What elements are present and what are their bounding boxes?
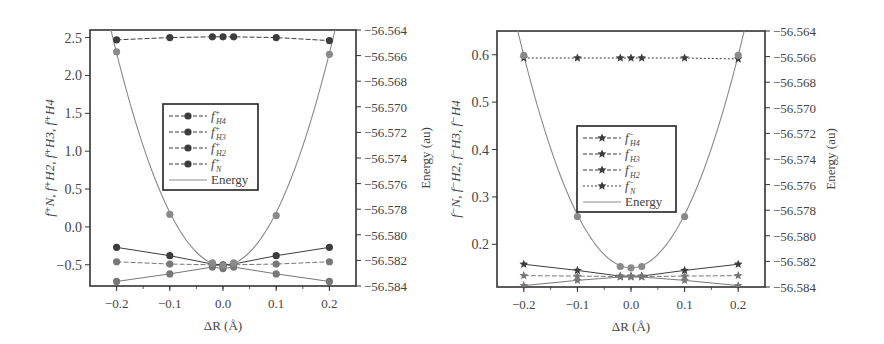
y2-tick-label: −56.584 <box>773 280 817 295</box>
star-marker-icon <box>734 260 743 268</box>
y2-tick-label: −56.564 <box>364 23 408 38</box>
x-tick-label: −0.2 <box>105 296 129 311</box>
y2-tick-label: −56.572 <box>773 126 816 141</box>
y-tick-label: −0.5 <box>57 258 82 273</box>
circle-marker-icon <box>273 252 280 259</box>
x-tick-label: 0.1 <box>268 296 284 311</box>
x-tick-label: 0.0 <box>623 297 639 312</box>
circle-marker-icon <box>166 252 173 259</box>
y2-tick-label: −56.578 <box>364 202 407 217</box>
y2-tick-label: −56.580 <box>364 228 407 243</box>
y2-tick-label: −56.580 <box>773 229 816 244</box>
circle-marker-icon <box>273 212 280 219</box>
star-marker-icon <box>616 53 625 61</box>
legend-label: Energy <box>211 172 249 187</box>
circle-marker-icon <box>520 52 527 59</box>
y-tick-label: 1.0 <box>65 144 83 159</box>
circle-marker-icon <box>166 211 173 218</box>
y-axis-label: f⁻N, f⁻H2, f⁻H3, f⁻H4 <box>448 100 463 218</box>
circle-marker-icon <box>230 259 237 266</box>
y2-tick-label: −56.564 <box>773 24 817 39</box>
y2-tick-label: −56.576 <box>773 178 817 193</box>
circle-marker-icon <box>184 160 191 167</box>
y2-axis-label: Energy (au) <box>418 127 433 188</box>
x-axis-label: ΔR (Å) <box>612 319 650 334</box>
star-marker-icon <box>627 272 636 280</box>
x-tick-label: −0.2 <box>512 297 536 312</box>
star-marker-icon <box>637 272 646 280</box>
circle-marker-icon <box>113 244 120 251</box>
circle-marker-icon <box>617 263 624 270</box>
circle-marker-icon <box>113 278 120 285</box>
circle-marker-icon <box>209 33 216 40</box>
y-tick-label: 2.5 <box>65 31 83 46</box>
circle-marker-icon <box>209 259 216 266</box>
star-marker-icon <box>637 53 646 61</box>
circle-marker-icon <box>273 34 280 41</box>
legend-label: Energy <box>625 194 663 209</box>
star-marker-icon <box>627 53 636 61</box>
circle-marker-icon <box>219 33 226 40</box>
circle-marker-icon <box>326 278 333 285</box>
circle-marker-icon <box>166 260 173 267</box>
y-tick-label: 2.0 <box>65 68 83 83</box>
star-marker-icon <box>519 260 528 268</box>
star-marker-icon <box>519 271 528 279</box>
y-axis-label: f⁺N, f⁺H2, f⁺H3, f⁺H4 <box>42 99 57 217</box>
y2-tick-label: −56.576 <box>364 177 408 192</box>
y2-tick-label: −56.568 <box>364 74 407 89</box>
circle-marker-icon <box>219 262 226 269</box>
circle-marker-icon <box>681 213 688 220</box>
circle-marker-icon <box>273 270 280 277</box>
y2-tick-label: −56.568 <box>773 75 816 90</box>
chart-left-fukui-plus: −0.2−0.10.00.10.2ΔR (Å)−0.50.00.51.01.52… <box>0 0 440 344</box>
x-tick-label: −0.1 <box>158 296 182 311</box>
star-marker-icon <box>734 271 743 279</box>
y2-tick-label: −56.566 <box>773 50 817 65</box>
star-marker-icon <box>573 53 582 61</box>
x-tick-label: 0.2 <box>321 296 337 311</box>
y2-tick-label: −56.570 <box>773 101 816 116</box>
circle-marker-icon <box>113 48 120 55</box>
y-tick-label: 0.5 <box>65 182 83 197</box>
circle-marker-icon <box>326 244 333 251</box>
y2-tick-label: −56.582 <box>773 254 816 269</box>
circle-marker-icon <box>735 52 742 59</box>
circle-marker-icon <box>184 112 191 119</box>
circle-marker-icon <box>113 36 120 43</box>
circle-marker-icon <box>184 128 191 135</box>
chart-right-fukui-minus: −0.2−0.10.00.10.2ΔR (Å)0.20.30.40.50.6f⁻… <box>440 0 884 344</box>
y-tick-label: 1.5 <box>65 106 83 121</box>
y2-tick-label: −56.566 <box>364 49 408 64</box>
circle-marker-icon <box>326 51 333 58</box>
legend: f−H4f−H3f−H2f−NEnergy <box>577 126 676 212</box>
y-tick-label: 0.0 <box>65 220 83 235</box>
circle-marker-icon <box>326 37 333 44</box>
y2-tick-label: −56.578 <box>773 203 816 218</box>
x-tick-label: 0.2 <box>730 297 746 312</box>
circle-marker-icon <box>638 263 645 270</box>
star-marker-icon <box>680 53 689 61</box>
x-tick-label: 0.1 <box>676 297 692 312</box>
y-tick-label: 0.5 <box>472 95 490 110</box>
y-tick-label: 0.3 <box>472 190 490 205</box>
y2-tick-label: −56.572 <box>364 125 407 140</box>
x-axis-label: ΔR (Å) <box>204 318 242 333</box>
circle-marker-icon <box>166 270 173 277</box>
star-marker-icon <box>680 276 689 284</box>
circle-marker-icon <box>166 34 173 41</box>
circle-marker-icon <box>113 258 120 265</box>
y2-tick-label: −56.584 <box>364 279 408 294</box>
x-tick-label: −0.1 <box>566 297 590 312</box>
y-tick-label: 0.6 <box>472 48 490 63</box>
legend: f+H4f+H3f+H2f+NEnergy <box>163 104 258 190</box>
circle-marker-icon <box>326 258 333 265</box>
y2-tick-label: −56.570 <box>364 100 407 115</box>
star-marker-icon <box>616 272 625 280</box>
circle-marker-icon <box>273 260 280 267</box>
y2-tick-label: −56.582 <box>364 253 407 268</box>
star-marker-icon <box>573 276 582 284</box>
y-tick-label: 0.4 <box>472 143 490 158</box>
y2-tick-label: −56.574 <box>364 151 408 166</box>
circle-marker-icon <box>627 264 634 271</box>
